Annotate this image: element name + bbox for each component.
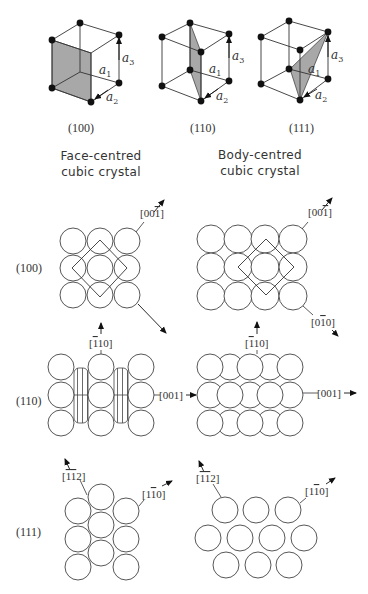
axis-a3: a3 xyxy=(122,51,134,67)
axis-a3: a3 xyxy=(232,49,244,65)
dir-bcc-111-right: [110] xyxy=(305,485,328,497)
crystal-planes-figure: a3 a1 a2 (100) a3 a1 a2 (110) xyxy=(0,0,368,594)
fcc-111-lattice: [112] [110] xyxy=(62,459,172,580)
dir-bcc-110-up: [110] xyxy=(245,337,268,349)
dir-bcc-100-up: [001] xyxy=(308,206,332,218)
dir-fcc-111-left: [112] xyxy=(62,470,85,482)
axis-a2: a2 xyxy=(106,90,118,106)
axis-a2: a2 xyxy=(216,89,228,105)
plane-label-100: (100) xyxy=(68,121,94,135)
fcc-title-line1: Face-centred xyxy=(60,149,141,163)
cube-111: a3 a1 a2 (111) xyxy=(258,18,344,135)
axis-a2: a2 xyxy=(315,88,327,104)
plane-110-shade xyxy=(190,23,201,101)
bcc-title-line1: Body-centred xyxy=(218,148,302,162)
row-label-111: (111) xyxy=(16,525,41,539)
plane-100-shade xyxy=(52,40,91,102)
fcc-100-lattice: [001] xyxy=(60,200,166,333)
plane-label-110: (110) xyxy=(190,121,216,135)
axis-a3: a3 xyxy=(331,48,343,64)
dir-bcc-111-left: [112] xyxy=(196,472,219,484)
axis-a1: a1 xyxy=(99,63,111,79)
dir-fcc-110-up: [110] xyxy=(89,337,112,349)
fcc-title-line2: cubic crystal xyxy=(61,165,141,179)
bcc-111-lattice: [112] [110] xyxy=(195,461,335,578)
bcc-100-lattice: [001] [010] xyxy=(197,198,338,336)
cube-100: a3 a1 a2 (100) xyxy=(49,20,135,135)
dir-bcc-100-down: [010] xyxy=(311,316,335,328)
axis-a1: a1 xyxy=(308,62,320,78)
row-label-110: (110) xyxy=(16,394,42,408)
bcc-110-lattice: [110] [001] xyxy=(197,322,356,436)
bcc-title-line2: cubic crystal xyxy=(220,164,300,178)
dir-fcc-110-right: [001] xyxy=(159,389,183,401)
dir-fcc-111-right: [110] xyxy=(142,488,165,500)
dir-bcc-110-right: [001] xyxy=(317,387,341,399)
plane-label-111: (111) xyxy=(289,121,314,135)
fcc-110-lattice: [110] [001] xyxy=(48,323,196,436)
cube-110: a3 a1 a2 (110) xyxy=(159,20,245,135)
row-label-100: (100) xyxy=(16,261,42,275)
dir-fcc-100-up: [001] xyxy=(140,207,164,219)
axis-a1: a1 xyxy=(209,62,221,78)
